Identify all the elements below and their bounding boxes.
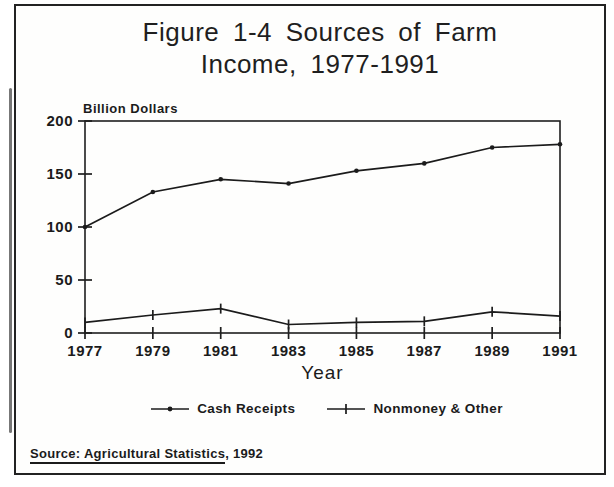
source-note-underlined: Source: Agricultural Statistics [30,446,225,464]
data-point-dot [490,145,495,150]
nonmoney-plus-marker-icon [325,403,367,415]
source-note-year: , 1992 [225,446,263,461]
x-tick-label: 1991 [542,342,577,359]
data-point-dot [83,225,88,230]
legend-item-nonmoney-other: Nonmoney & Other [325,401,502,416]
x-tick-label: 1987 [407,342,442,359]
legend-label-cash-receipts: Cash Receipts [197,401,295,416]
y-tick-label: 100 [46,218,73,235]
plot-area [85,121,560,333]
data-point-dot [558,142,563,147]
data-point-dot [151,190,156,195]
data-point-dot [422,161,427,166]
y-tick-label: 0 [64,324,73,341]
x-tick-label: 1977 [67,342,102,359]
x-axis-title: Year [301,362,343,383]
data-point-dot [218,177,223,182]
series-line-dot [85,144,560,227]
data-point-dot [286,181,291,186]
x-tick-label: 1979 [135,342,170,359]
legend-item-cash-receipts: Cash Receipts [149,401,295,416]
x-tick-label: 1983 [271,342,306,359]
source-note: Source: Agricultural Statistics, 1992 [30,446,263,461]
x-tick-label: 1981 [203,342,238,359]
y-tick-label: 150 [46,165,73,182]
cash-receipts-line-marker-icon [149,403,191,415]
y-axis-title: Billion Dollars [83,101,178,116]
series-line-plus [85,309,560,325]
data-point-dot [354,169,359,174]
legend-label-nonmoney-other: Nonmoney & Other [373,401,502,416]
y-tick-label: 200 [46,112,73,129]
x-tick-label: 1985 [339,342,374,359]
x-tick-label: 1989 [474,342,509,359]
y-tick-label: 50 [55,271,73,288]
chart-legend: Cash Receipts Nonmoney & Other [0,401,614,416]
